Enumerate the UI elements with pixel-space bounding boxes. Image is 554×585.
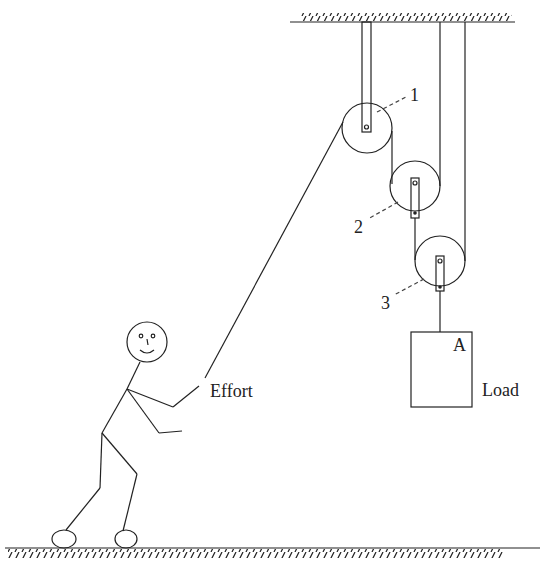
pulley-1: 1 bbox=[342, 22, 419, 153]
ground bbox=[5, 548, 540, 558]
load-block: A Load bbox=[411, 291, 519, 407]
pulley-3-label: 3 bbox=[381, 293, 390, 313]
pulley-diagram: 1 2 3 A Load Effort bbox=[0, 0, 554, 585]
effort-rope bbox=[205, 122, 343, 378]
stick-figure bbox=[52, 322, 199, 548]
effort-label: Effort bbox=[210, 381, 253, 401]
load-label: Load bbox=[482, 380, 519, 400]
pulley-2-label: 2 bbox=[354, 217, 363, 237]
load-point-label: A bbox=[453, 335, 466, 355]
pulley-1-label: 1 bbox=[410, 85, 419, 105]
ceiling bbox=[290, 13, 515, 22]
pulley-3: 3 bbox=[381, 236, 465, 313]
pulley-2: 2 bbox=[354, 161, 440, 237]
